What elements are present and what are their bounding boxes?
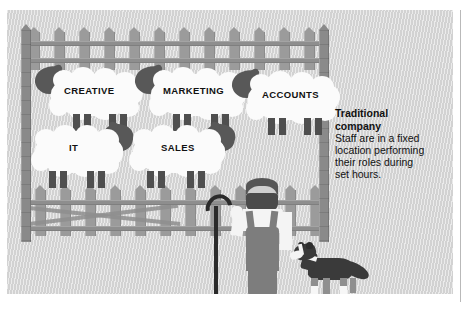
- fence-rail: [21, 58, 327, 63]
- sheep-leg: [98, 171, 105, 188]
- sheep-leg: [304, 118, 311, 135]
- sheep-fluff: [129, 149, 149, 171]
- fence-picket: [304, 32, 315, 70]
- caption-heading-line2: company: [335, 121, 447, 133]
- dog-leg: [323, 278, 330, 294]
- sheep-creative: CREATIVE: [35, 64, 141, 126]
- caption-block: Traditional company Staff are in a fixed…: [335, 108, 447, 180]
- sheep-it: IT: [31, 123, 139, 185]
- fence-rail: [21, 41, 327, 46]
- fence-picket: [279, 32, 290, 70]
- sheep-label-accounts: ACCOUNTS: [262, 89, 319, 100]
- sheep-fluff: [149, 94, 169, 116]
- caption-body-line2: location performing: [335, 145, 447, 157]
- caption-body-line3: their roles during: [335, 157, 447, 169]
- dog-leg: [350, 278, 356, 293]
- sheep-leg: [147, 171, 154, 188]
- illustration-canvas: CREATIVE MARKETING: [7, 10, 453, 294]
- caption-heading-line1: Traditional: [335, 108, 447, 120]
- page-edge-rule: [460, 10, 461, 302]
- fence-post-right: [319, 30, 329, 242]
- sheep-sales: SALES: [129, 123, 243, 185]
- sheep-leg: [158, 171, 165, 188]
- sheep-fluff: [31, 149, 51, 171]
- shepherd-hand-left: [231, 206, 243, 220]
- sheep-leg: [198, 171, 205, 188]
- sheep-label-it: IT: [69, 142, 78, 153]
- sheep-leg: [60, 171, 67, 188]
- caption-body-line4: set hours.: [335, 169, 447, 181]
- sheep-leg: [268, 118, 275, 135]
- sheep-leg: [49, 171, 56, 188]
- sheep-label-marketing: MARKETING: [163, 85, 224, 96]
- fence-post-left: [21, 30, 31, 242]
- fence-picket: [254, 32, 265, 70]
- sheep-label-creative: CREATIVE: [64, 85, 115, 96]
- shepherd-leg: [248, 266, 277, 294]
- sheep-fluff: [49, 94, 69, 116]
- sheepdog-figure: [290, 242, 368, 294]
- dog-leg-sock: [311, 286, 318, 294]
- sheep-leg: [315, 118, 322, 135]
- dog-ear-icon: [306, 242, 313, 249]
- sheep-leg: [187, 171, 194, 188]
- post-grain: [319, 30, 329, 242]
- sheep-leg: [87, 171, 94, 188]
- shepherd-overalls: [246, 227, 279, 271]
- illustration-page: CREATIVE MARKETING: [0, 0, 469, 316]
- post-grain: [21, 30, 31, 242]
- sheep-fluff: [246, 98, 266, 120]
- sheep-label-sales: SALES: [161, 142, 195, 153]
- sheep-marketing: MARKETING: [135, 64, 247, 126]
- sheep-accounts: ACCOUNTS: [232, 70, 340, 132]
- dog-leg-sock: [340, 286, 347, 294]
- sheep-leg: [279, 118, 286, 135]
